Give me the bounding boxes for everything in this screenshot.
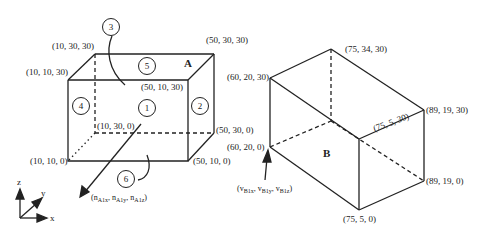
vertex-b-89-19-30: (89, 19, 30) — [426, 106, 468, 115]
vertex-a-bottom-front-left: (10, 10, 0) — [30, 157, 68, 166]
face-6-marker: 6 — [117, 170, 135, 188]
vertex-b-89-19-0: (89, 19, 0) — [426, 177, 464, 186]
vertex-a-top-back-right: (50, 30, 30) — [206, 36, 248, 45]
normal-y: A1y — [116, 197, 126, 203]
axis-y-label: y — [41, 189, 46, 198]
vertex-b-60-20-0: (60, 20, 0) — [227, 143, 265, 152]
velocity-vector-label: (vB1x, vB1y, vB1z) — [237, 185, 292, 194]
leader-face-6 — [138, 155, 149, 180]
leader-face-3 — [109, 36, 125, 85]
vertex-a-top-front-right: (50, 10, 30) — [141, 83, 183, 92]
vertex-b-60-20-30: (60, 20, 30) — [227, 73, 269, 82]
vertex-b-75-34-30: (75, 34, 30) — [345, 45, 387, 54]
velocity-x: B1x — [244, 188, 254, 194]
face-3-marker: 3 — [102, 18, 120, 36]
velocity-z: B1z — [280, 188, 290, 194]
face-1-marker: 1 — [138, 99, 156, 117]
face-5-marker: 5 — [138, 57, 156, 75]
axis-x-label: x — [50, 214, 55, 223]
axis-z-label: z — [17, 178, 21, 187]
vertex-a-bottom-back-left: (10, 30, 0) — [97, 122, 135, 131]
vertex-a-top-front-left: (10, 10, 30) — [26, 68, 68, 77]
face-4-marker: 4 — [72, 97, 90, 115]
vertex-a-bottom-front-right: (50, 10, 0) — [193, 157, 231, 166]
vertex-a-bottom-back-right: (50, 30, 0) — [216, 126, 254, 135]
normal-vector-label: (nA1x, nA1y, nA1z) — [91, 194, 147, 203]
normal-z: A1z — [134, 197, 144, 203]
face-2-marker: 2 — [191, 97, 209, 115]
normal-x: A1x — [98, 197, 108, 203]
vertex-a-top-back-left: (10, 30, 30) — [52, 42, 94, 51]
box-b-label: B — [323, 148, 330, 159]
velocity-y: B1y — [262, 188, 272, 194]
vertex-b-75-5-0: (75, 5, 0) — [343, 215, 376, 224]
box-a-dotted-edge — [68, 133, 95, 161]
box-a-label: A — [184, 58, 192, 69]
box-b-edges — [270, 49, 424, 210]
